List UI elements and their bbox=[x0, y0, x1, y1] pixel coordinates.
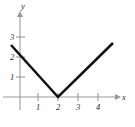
x-tick-label-3: 3 bbox=[75, 102, 80, 112]
y-tick-label-1: 1 bbox=[10, 72, 14, 82]
x-axis-arrow-icon bbox=[115, 94, 121, 100]
absolute-value-curve bbox=[11, 43, 113, 97]
y-tick-label-2: 2 bbox=[10, 52, 15, 62]
y-axis-arrow-icon bbox=[17, 11, 23, 17]
plot-area: 1 2 3 4 1 2 3 x y bbox=[0, 0, 135, 127]
x-tick-label-4: 4 bbox=[96, 102, 101, 112]
x-axis-label: x bbox=[121, 92, 126, 102]
y-tick-label-3: 3 bbox=[9, 32, 14, 42]
graph-figure: 1 2 3 4 1 2 3 x y bbox=[0, 0, 135, 127]
x-tick-label-2: 2 bbox=[56, 102, 61, 112]
y-axis-label: y bbox=[20, 1, 25, 11]
x-tick-label-1: 1 bbox=[36, 102, 40, 112]
